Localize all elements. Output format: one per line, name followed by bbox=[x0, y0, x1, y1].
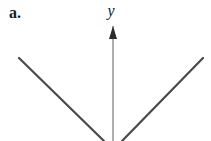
graph-canvas bbox=[0, 0, 211, 141]
left-branch-line bbox=[19, 58, 104, 141]
y-axis-arrow-icon bbox=[109, 26, 117, 39]
figure-container: a. y bbox=[0, 0, 211, 141]
right-branch-line bbox=[122, 58, 203, 141]
